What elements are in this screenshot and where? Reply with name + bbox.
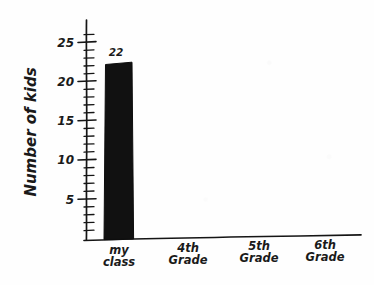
y-tick-label-10: 10 [57, 153, 74, 167]
y-major-tick-10 [78, 159, 96, 160]
bar-value-label-my-class: 22 [109, 46, 124, 58]
y-major-tick-5 [78, 199, 96, 200]
hand-drawn-bar-chart: 25 20 15 10 5 Number of kids 22 my class… [0, 0, 374, 285]
y-tick-label-15: 15 [57, 114, 74, 128]
x-category-my-class: my class [103, 243, 135, 269]
y-major-tick-20 [78, 81, 96, 82]
y-axis-minor-ticks [84, 34, 94, 230]
y-tick-label-20: 20 [57, 75, 74, 89]
y-tick-label-25: 25 [57, 36, 74, 50]
x-axis-category-labels: my class 4th Grade 5th Grade 6th Grade [103, 238, 345, 269]
svg-text:Grade: Grade [240, 251, 279, 265]
y-tick-label-5: 5 [66, 193, 74, 207]
chart-canvas: 25 20 15 10 5 Number of kids 22 my class… [0, 0, 374, 285]
y-axis-title: Number of kids [22, 67, 40, 196]
bar-my-class [104, 62, 134, 239]
x-category-6th-grade: 6th Grade [306, 238, 345, 264]
svg-text:Grade: Grade [169, 253, 208, 267]
x-category-4th-grade: 4th Grade [169, 241, 208, 267]
svg-text:class: class [103, 255, 135, 269]
y-major-tick-15 [78, 120, 96, 121]
svg-text:Grade: Grade [306, 250, 345, 264]
y-major-tick-25 [78, 42, 96, 43]
x-category-5th-grade: 5th Grade [240, 239, 279, 265]
